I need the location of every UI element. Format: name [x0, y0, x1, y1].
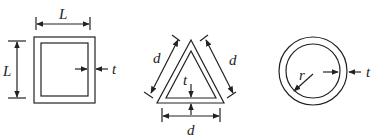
label-square-L-top: L [58, 6, 67, 22]
square-outer-wall [34, 37, 95, 103]
circle-inner-wall [286, 44, 340, 98]
label-circle-r: r [299, 67, 305, 83]
label-circle-t: t [366, 64, 371, 80]
label-triangle-d-bottom: d [187, 122, 195, 138]
label-square-t: t [112, 61, 117, 77]
label-triangle-d-left: d [153, 50, 161, 66]
circle-section [279, 37, 361, 105]
label-triangle-t: t [183, 72, 188, 88]
dimension-arrow-d-left [151, 40, 178, 93]
triangle-section [144, 35, 236, 122]
cross-sections-diagram: L L t d d d t r t [0, 0, 383, 139]
label-square-L-left: L [2, 63, 11, 79]
circle-outer-wall [279, 37, 347, 105]
square-section [8, 17, 108, 103]
label-triangle-d-right: d [229, 52, 237, 68]
